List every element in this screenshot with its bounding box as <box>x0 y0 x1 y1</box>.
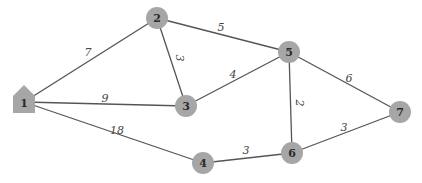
edge-weight-1-3: 9 <box>102 92 109 105</box>
node-4: 4 <box>192 152 214 174</box>
edge-weight-3-5: 4 <box>229 68 237 81</box>
node-6: 6 <box>281 142 303 164</box>
node-7: 7 <box>389 101 411 123</box>
edge-weight-2-5: 5 <box>218 21 225 34</box>
edge-weight-6-7: 3 <box>341 121 348 134</box>
edge-weight-1-2: 7 <box>85 46 92 59</box>
edge-3-5 <box>186 52 289 106</box>
node-label: 1 <box>20 97 28 110</box>
edge-weight-5-7: 6 <box>346 72 353 85</box>
edge-weight-4-6: 3 <box>243 144 250 157</box>
node-label: 2 <box>153 12 161 25</box>
edge-2-3 <box>157 18 186 106</box>
edges-layer <box>24 18 400 163</box>
edge-1-2 <box>24 18 157 102</box>
node-label: 7 <box>396 106 404 119</box>
node-label: 6 <box>288 147 296 160</box>
graph-svg: 79183542633 1234567 <box>0 0 422 183</box>
node-5: 5 <box>278 41 300 63</box>
edge-weight-5-6: 2 <box>293 99 306 107</box>
edge-weight-2-3: 3 <box>173 55 186 62</box>
node-label: 4 <box>199 157 207 170</box>
graph-diagram: 79183542633 1234567 <box>0 0 422 183</box>
node-label: 3 <box>182 100 190 113</box>
node-2: 2 <box>146 7 168 29</box>
node-label: 5 <box>285 46 293 59</box>
edge-weight-1-4: 18 <box>110 124 124 137</box>
node-1: 1 <box>13 85 35 113</box>
edge-5-6 <box>289 52 292 153</box>
node-3: 3 <box>175 95 197 117</box>
